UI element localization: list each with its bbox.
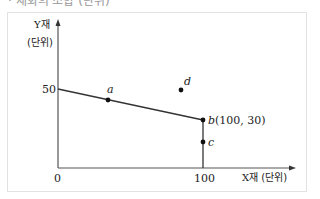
point-c-label: c [208, 137, 214, 148]
x-axis-label: X재 (단위) [242, 173, 287, 183]
point-b [201, 118, 206, 123]
origin-label: 0 [54, 173, 61, 184]
y-axis-label: Y재 [34, 20, 50, 30]
x-tick-100: 100 [194, 173, 215, 184]
point-a-label: a [107, 84, 114, 95]
point-a [106, 98, 111, 103]
y-axis-arrow-icon [56, 19, 61, 26]
x-axis-arrow-icon [289, 166, 296, 171]
point-d [179, 88, 184, 93]
point-b-label: b(100, 30) [208, 115, 266, 126]
y-axis-unit: (단위) [27, 38, 53, 48]
y-tick-50: 50 [42, 84, 56, 95]
point-c [201, 140, 206, 145]
constraint-line [58, 89, 203, 120]
point-d-label: d [184, 76, 191, 87]
